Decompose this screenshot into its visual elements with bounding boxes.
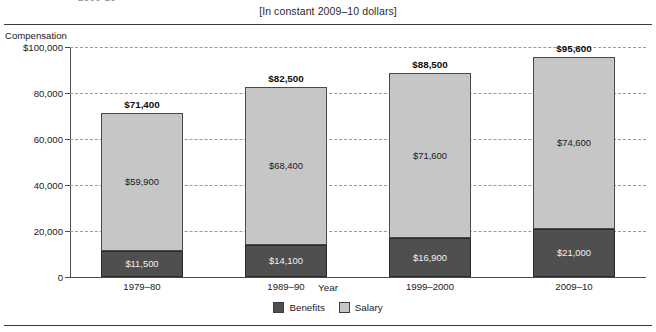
legend-label: Salary [355, 302, 383, 313]
bottom-divider-rule [4, 325, 652, 326]
y-tick-label: 20,000 [4, 226, 63, 237]
bar-value-label-salary: $68,400 [269, 161, 303, 170]
bar-segment-benefits[interactable]: $16,900 [389, 238, 471, 277]
y-tick-label: 40,000 [4, 180, 63, 191]
bar-segment-benefits[interactable]: $11,500 [101, 251, 183, 277]
bar-value-label-benefits: $14,100 [269, 256, 303, 265]
bar-segment-salary[interactable]: $68,400 [245, 87, 327, 244]
bar-segment-salary[interactable]: $59,900 [101, 113, 183, 251]
chart-subtitle: [In constant 2009–10 dollars] [0, 5, 656, 17]
bar-total-label: $88,500 [412, 59, 447, 70]
bar-segment-benefits[interactable]: $14,100 [245, 245, 327, 277]
legend-swatch-icon [339, 302, 350, 313]
y-axis-tick [65, 139, 70, 140]
x-axis-title: Year [0, 282, 656, 293]
y-tick-label: 0 [4, 272, 63, 283]
plot-area: $100,00080,00060,00040,00020,0000 $11,50… [70, 47, 646, 277]
bar-group[interactable]: $14,100$68,400$82,500 [245, 47, 327, 277]
legend-swatch-icon [273, 302, 284, 313]
bar-segment-benefits[interactable]: $21,000 [533, 229, 615, 277]
bar-value-label-salary: $71,600 [413, 151, 447, 160]
y-axis-tick [65, 185, 70, 186]
y-axis-tick [65, 231, 70, 232]
bar-value-label-benefits: $11,500 [125, 259, 158, 268]
bar-segment-salary[interactable]: $71,600 [389, 73, 471, 238]
y-axis-title: Compensation [5, 30, 67, 41]
bar-segment-salary[interactable]: $74,600 [533, 57, 615, 229]
y-tick-label: 80,000 [4, 88, 63, 99]
bar-value-label-benefits: $16,900 [413, 253, 447, 262]
bar-total-label: $95,600 [556, 43, 591, 54]
bar-group[interactable]: $21,000$74,600$95,600 [533, 47, 615, 277]
y-axis-tick [65, 93, 70, 94]
bar-group[interactable]: $16,900$71,600$88,500 [389, 47, 471, 277]
bar-value-label-salary: $59,900 [125, 177, 159, 186]
legend-item[interactable]: Benefits [273, 302, 324, 313]
y-tick-label: $100,000 [4, 42, 63, 53]
bar-value-label-salary: $74,600 [557, 138, 591, 147]
bar-value-label-benefits: $21,000 [557, 248, 591, 257]
x-axis-line [70, 277, 646, 278]
y-axis-line [70, 47, 71, 277]
y-axis-tick [65, 47, 70, 48]
chart-legend: BenefitsSalary [0, 302, 656, 313]
bar-total-label: $82,500 [268, 73, 303, 84]
y-axis-tick [65, 277, 70, 278]
top-divider-rule [4, 24, 652, 25]
legend-item[interactable]: Salary [339, 302, 383, 313]
y-tick-label: 60,000 [4, 134, 63, 145]
clipped-title-text: 2009-10 [78, 0, 116, 3]
bar-total-label: $71,400 [124, 99, 159, 110]
legend-label: Benefits [289, 302, 324, 313]
bar-group[interactable]: $11,500$59,900$71,400 [101, 47, 183, 277]
